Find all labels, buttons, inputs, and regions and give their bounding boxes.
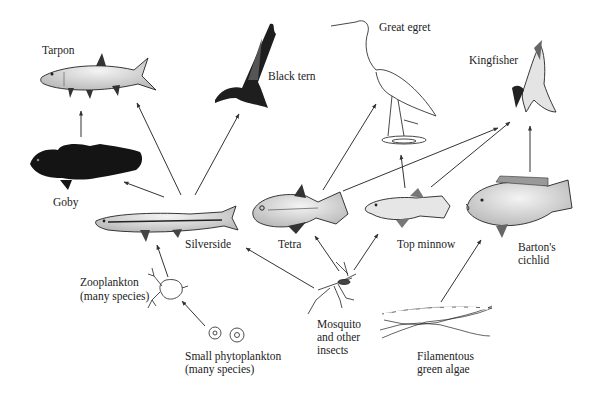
arrow-mosquito-to-silverside [246,248,314,288]
phytoplankton-illustration [209,327,244,342]
label-mosquito-line3: insects [317,344,348,357]
tarpon-illustration [41,53,156,99]
label-mosquito-line2: and other [317,331,360,344]
label-bartons-cichlid-line2: cichlid [518,254,549,267]
arrow-zooplankton-to-silverside [157,245,168,277]
label-kingfisher: Kingfisher [469,54,518,67]
black-tern-illustration [215,24,276,108]
label-tarpon: Tarpon [42,44,74,57]
arrow-top-minnow-to-kingfisher [431,122,510,187]
great-egret-illustration [331,21,436,144]
label-phytoplankton-line1: Small phytoplankton [185,350,281,363]
label-great-egret: Great egret [379,21,430,34]
arrow-phytoplankton-to-zooplankton [182,301,205,326]
zooplankton-illustration [148,268,188,308]
label-bartons-cichlid-line1: Barton's [518,241,556,254]
arrow-mosquito-to-top-minnow [354,234,378,270]
label-zooplankton-line1: Zooplankton [80,276,139,289]
label-tetra: Tetra [278,238,301,251]
bartons-cichlid-illustration [466,176,572,238]
label-mosquito-line1: Mosquito [317,318,361,331]
arrow-silverside-to-goby [124,182,164,197]
label-top-minnow: Top minnow [397,238,455,251]
arrow-silverside-to-black-tern [195,114,239,195]
filamentous-algae-illustration [380,306,492,338]
top-minnow-illustration [365,188,450,228]
mosquito-illustration [308,262,356,314]
tetra-illustration [253,184,348,234]
silverside-illustration [96,206,238,242]
goby-illustration [30,144,142,190]
arrow-tetra-to-great-egret [323,104,376,190]
arrow-mosquito-to-tetra [315,236,339,271]
label-black-tern: Black tern [268,70,316,83]
arrow-silverside-to-tarpon [137,103,181,195]
label-algae-line1: Filamentous [417,350,474,363]
arrow-top-minnow-to-great-egret [401,155,405,188]
label-silverside: Silverside [185,238,231,251]
label-zooplankton-line2: (many species) [80,290,149,303]
label-goby: Goby [53,196,79,209]
label-algae-line2: green algae [417,363,470,376]
label-phytoplankton-line2: (many species) [185,363,254,376]
kingfisher-illustration [512,40,556,112]
